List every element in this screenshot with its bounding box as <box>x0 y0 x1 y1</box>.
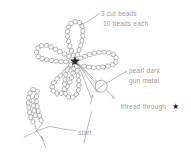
start-thread-junction <box>24 123 50 141</box>
label-gun-metal: gun metal <box>129 76 159 86</box>
bead-strand-start <box>26 87 44 124</box>
label-beads-each: 10 beads each <box>103 19 148 29</box>
label-thread-through: thread through <box>121 102 166 112</box>
star-glyph-icon: ★ <box>172 101 179 113</box>
label-start: start <box>78 128 92 138</box>
start-thread-arrow <box>41 136 45 147</box>
leader-lines <box>50 14 127 131</box>
diagram-canvas: 3 cut beads 10 beads each pearl dark gun… <box>0 0 191 154</box>
label-cut-beads: 3 cut beads <box>101 9 137 19</box>
leader-gun-metal <box>107 72 127 84</box>
leader-cut-beads <box>81 14 100 26</box>
slashed-circle-icon <box>95 80 107 92</box>
label-pearl-dark: pearl dark <box>129 66 160 76</box>
leader-start <box>50 127 76 131</box>
beading-diagram-svg <box>0 0 191 154</box>
bead-arm-upper-right <box>77 50 119 70</box>
